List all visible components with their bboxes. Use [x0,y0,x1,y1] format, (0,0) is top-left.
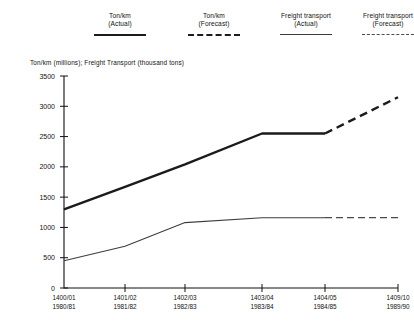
x-tick-label-primary: 1401/02 [113,294,137,301]
x-tick-label-secondary: 1981/82 [113,303,137,310]
y-tick-label: 3500 [39,73,55,80]
x-tick-label-secondary: 1982/83 [173,303,197,310]
y-tick-label: 1500 [39,194,55,201]
series-line-thick-solid [64,134,325,210]
x-tick-label-primary: 1403/04 [250,294,274,301]
x-tick-label-secondary: 1983/84 [250,303,274,310]
x-tick-label-secondary: 1984/85 [313,303,337,310]
chart-container: Ton/km (Actual) Ton/km (Forecast) Freigh… [0,0,414,335]
x-tick-label-primary: 1400/01 [52,294,76,301]
chart-axes [64,76,398,288]
y-tick-label: 0 [51,285,55,292]
chart-series-layer [64,97,398,261]
chart-plot-area: 0500100015002000250030003500 1400/011980… [0,0,414,335]
y-tick-label: 2500 [39,133,55,140]
y-tick-label: 2000 [39,163,55,170]
x-tick-label-primary: 1409/10 [386,294,410,301]
x-tick-label-secondary: 1980/81 [52,303,76,310]
y-tick-label: 1000 [39,224,55,231]
series-line-thin-solid [64,218,325,261]
y-tick-label: 3000 [39,103,55,110]
series-line-thick-dash [325,97,398,133]
x-tick-label-secondary: 1989/90 [386,303,410,310]
y-tick-label: 500 [43,254,55,261]
x-tick-label-primary: 1402/03 [173,294,197,301]
x-tick-label-primary: 1404/05 [313,294,337,301]
